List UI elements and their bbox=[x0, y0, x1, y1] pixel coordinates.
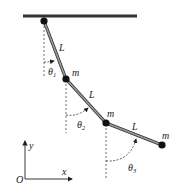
triple-pendulum-diagram: L L L m m m θ1 θ2 θ3 O y x bbox=[0, 0, 183, 194]
mass-3 bbox=[158, 141, 165, 148]
angle-arc-2 bbox=[66, 108, 88, 115]
angle-arc-1 bbox=[44, 61, 54, 62]
rod-2 bbox=[66, 79, 106, 123]
x-axis-label: x bbox=[61, 166, 67, 177]
pivot-joint bbox=[40, 17, 47, 24]
ceiling-bar bbox=[23, 15, 137, 18]
link-1-label: L bbox=[58, 42, 65, 53]
angle-arc-3 bbox=[106, 139, 136, 161]
link-2-label: L bbox=[88, 89, 95, 100]
mass-3-label: m bbox=[162, 130, 169, 141]
y-axis-label: y bbox=[28, 140, 34, 151]
mass-1-label: m bbox=[72, 67, 79, 78]
mass-2-label: m bbox=[107, 108, 114, 119]
theta-3-label: θ3 bbox=[128, 162, 137, 174]
theta-2-label: θ2 bbox=[77, 119, 86, 131]
origin-label: O bbox=[16, 174, 23, 185]
mass-2 bbox=[102, 119, 109, 126]
theta-1-label: θ1 bbox=[48, 66, 56, 78]
mass-1 bbox=[62, 75, 69, 82]
link-3-label: L bbox=[131, 121, 138, 132]
